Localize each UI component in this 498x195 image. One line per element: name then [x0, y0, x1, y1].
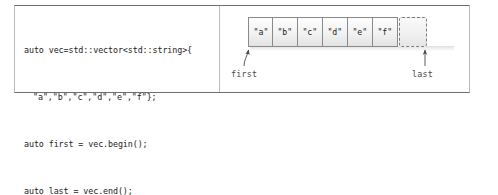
annotation-label-last: last: [412, 69, 433, 79]
code-line-2: "a","b","c","d","e","f"};: [24, 90, 214, 102]
vector-iterator-figure: auto vec=std::vector<std::string>{ "a","…: [0, 0, 498, 102]
vector-cell-0: "a": [248, 17, 274, 47]
vector-cell-1: "b": [272, 17, 298, 47]
annotation-label-first: first: [231, 69, 257, 79]
vector-cell-3: "d": [322, 17, 348, 47]
code-listing: auto vec=std::vector<std::string>{ "a","…: [24, 12, 214, 102]
vector-cell-2: "c": [297, 17, 323, 47]
code-line-1: auto vec=std::vector<std::string>{: [24, 43, 214, 59]
vector-cell-past-end: [399, 17, 427, 47]
vector-cell-4: "e": [347, 17, 373, 47]
panel-divider: [219, 6, 220, 92]
vector-cell-5: "f": [372, 17, 398, 47]
